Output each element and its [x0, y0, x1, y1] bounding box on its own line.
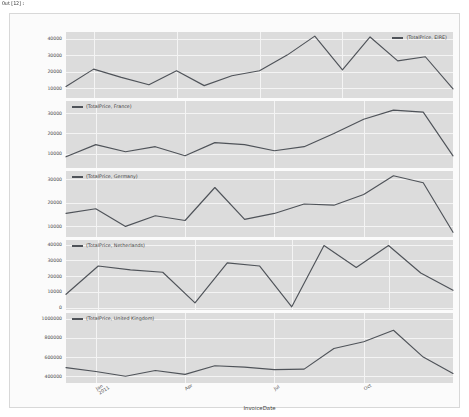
legend-netherlands-panel: (TotalPrice, Netherlands): [72, 243, 145, 249]
y-axis-tick-label: 30000: [22, 53, 62, 58]
y-axis-tick-label: 30000: [22, 111, 62, 116]
y-axis-tick-label: 10000: [22, 151, 62, 156]
matplotlib-figure: (TotalPrice, EIRE)(TotalPrice, France)(T…: [9, 13, 460, 408]
y-axis-tick-label: 30000: [22, 177, 62, 182]
legend-label: (TotalPrice, EIRE): [406, 35, 447, 41]
legend-swatch: [392, 37, 403, 38]
legend-france-panel: (TotalPrice, France): [72, 104, 132, 110]
legend-swatch: [72, 106, 83, 107]
y-axis-tick-label: 30000: [22, 258, 62, 263]
series-line: [66, 171, 453, 237]
y-axis-tick-label: 10000: [22, 86, 62, 91]
legend-swatch: [72, 318, 83, 319]
series-line: [66, 101, 453, 168]
y-axis-tick-label: 800000: [22, 335, 62, 340]
y-axis-tick-label: 20000: [22, 69, 62, 74]
y-axis-tick-label: 20000: [22, 131, 62, 136]
y-axis-tick-label: 0: [22, 305, 62, 310]
legend-label: (TotalPrice, France): [86, 104, 132, 110]
united-kingdom-panel: (TotalPrice, United Kingdom): [66, 313, 453, 383]
series-line: [66, 313, 453, 383]
legend-united-kingdom-panel: (TotalPrice, United Kingdom): [72, 316, 154, 322]
y-axis-tick-label: 400000: [22, 374, 62, 379]
series-line: [66, 32, 453, 98]
legend-swatch: [72, 245, 83, 246]
legend-label: (TotalPrice, Netherlands): [86, 243, 145, 249]
notebook-output-header: Out[12]:: [0, 0, 469, 11]
eire-panel: (TotalPrice, EIRE): [66, 32, 453, 98]
legend-label: (TotalPrice, Germany): [86, 174, 138, 180]
x-axis-tick-label: Jan2011: [95, 381, 110, 396]
y-axis-tick-label: 40000: [22, 242, 62, 247]
y-axis-tick-label: 600000: [22, 355, 62, 360]
x-axis-title: InvoiceDate: [66, 405, 453, 412]
legend-eire-panel: (TotalPrice, EIRE): [392, 35, 447, 41]
legend-swatch: [72, 176, 83, 177]
france-panel: (TotalPrice, France): [66, 101, 453, 168]
y-axis-tick-label: 10000: [22, 289, 62, 294]
x-axis-tick-label: Apr: [184, 383, 193, 391]
output-prompt-label: Out[12]:: [2, 0, 24, 7]
legend-germany-panel: (TotalPrice, Germany): [72, 174, 138, 180]
y-axis-tick-label: 40000: [22, 36, 62, 41]
y-axis-tick-label: 1000000: [22, 316, 62, 321]
x-axis-tick-label: Oct: [363, 383, 372, 391]
y-axis-tick-label: 10000: [22, 224, 62, 229]
netherlands-panel: (TotalPrice, Netherlands): [66, 240, 453, 310]
y-axis-tick-label: 20000: [22, 274, 62, 279]
x-axis-tick-label: Jul: [273, 384, 280, 391]
y-axis-tick-label: 20000: [22, 200, 62, 205]
germany-panel: (TotalPrice, Germany): [66, 171, 453, 237]
series-line: [66, 240, 453, 310]
screenshot-root: Out[12]: (TotalPrice, EIRE)(TotalPrice, …: [0, 0, 469, 417]
legend-label: (TotalPrice, United Kingdom): [86, 316, 154, 322]
